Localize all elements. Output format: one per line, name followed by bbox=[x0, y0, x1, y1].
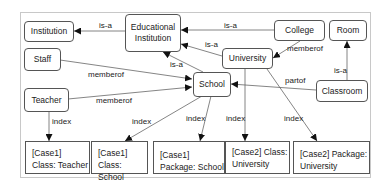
edge-label-isa: is-a bbox=[99, 21, 112, 30]
index-box-line2: University bbox=[300, 160, 337, 172]
node-college[interactable]: College bbox=[274, 20, 325, 41]
index-box-line2: Class: Teacher bbox=[32, 159, 88, 171]
node-label: Institution bbox=[31, 26, 67, 37]
node-label: University bbox=[229, 53, 266, 64]
node-label: School bbox=[199, 79, 225, 90]
node-label: Staff bbox=[34, 54, 51, 65]
index-box-line1: [Case1] bbox=[98, 147, 127, 159]
node-teacher[interactable]: Teacher bbox=[24, 88, 69, 112]
index-box-case1-class-school[interactable]: [Case1] Class: School bbox=[91, 141, 148, 174]
node-label-line1: Educational bbox=[131, 22, 175, 33]
edge-label-memberof: memberof bbox=[287, 44, 323, 53]
edge-label-isa: is-a bbox=[170, 60, 183, 69]
edge-label-index: index bbox=[226, 114, 245, 123]
node-staff[interactable]: Staff bbox=[24, 48, 61, 71]
index-box-line1: [Case1] bbox=[32, 147, 61, 159]
node-label: Room bbox=[337, 25, 360, 36]
edge-label-index: index bbox=[284, 114, 303, 123]
edge-isa-school-edu bbox=[163, 52, 203, 72]
node-room[interactable]: Room bbox=[329, 20, 367, 41]
node-educational-institution[interactable]: Educational Institution bbox=[125, 14, 181, 52]
edge-label-index: index bbox=[132, 117, 151, 126]
edge-label-memberof: memberof bbox=[96, 96, 132, 105]
index-box-line2: University bbox=[232, 158, 269, 170]
edge-label-isa: is-a bbox=[224, 21, 237, 30]
node-classroom[interactable]: Classroom bbox=[316, 80, 368, 102]
node-label: Teacher bbox=[31, 95, 61, 106]
edge-label-partof: partof bbox=[285, 76, 305, 85]
node-label-line2: Institution bbox=[135, 33, 171, 44]
index-box-line2: Package: School bbox=[160, 161, 224, 173]
index-box-line1: [Case1] bbox=[160, 149, 189, 161]
edge-label-isa: is-a bbox=[334, 66, 347, 75]
node-university[interactable]: University bbox=[222, 48, 273, 69]
node-label: Classroom bbox=[322, 86, 363, 97]
index-box-case1-package-school[interactable]: [Case1] Package: School bbox=[153, 141, 225, 174]
index-box-case2-class-university[interactable]: [Case2] Class: University bbox=[225, 141, 290, 174]
node-label: College bbox=[285, 25, 314, 36]
edge-label-isa: is-a bbox=[205, 40, 218, 49]
index-box-case1-class-teacher[interactable]: [Case1] Class: Teacher bbox=[25, 141, 90, 174]
index-box-case2-package-university[interactable]: [Case2] Package: University bbox=[293, 141, 370, 174]
edge-label-memberof: memberof bbox=[88, 70, 124, 79]
node-institution[interactable]: Institution bbox=[24, 21, 74, 42]
index-box-line1: [Case2] Package: bbox=[300, 148, 367, 160]
index-box-line2: Class: School bbox=[98, 159, 147, 183]
edge-label-index: index bbox=[52, 117, 71, 126]
node-school[interactable]: School bbox=[193, 72, 231, 97]
edge-label-index: index bbox=[186, 114, 205, 123]
index-box-line1: [Case2] Class: bbox=[232, 146, 287, 158]
